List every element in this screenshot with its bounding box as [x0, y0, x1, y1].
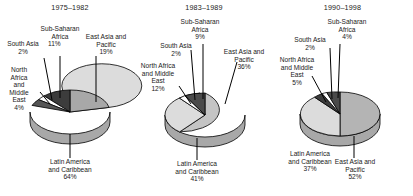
pie-1-value-sub-saharan-africa: 11%: [48, 40, 61, 48]
pie-panel-1975-1982: 1975–1982 Sub-Saharan Africa: [0, 0, 140, 196]
pie-1-label-north-africa-and-middle-east: North Africa and Middle East 4%: [0, 66, 38, 112]
pie-3-label-north-africa-and-middle-east: North Africa and Middle East 5%: [272, 56, 322, 86]
pie-panel-1983-1989: 1983–1989 Sub-Saharan Africa 9%: [133, 0, 275, 196]
pie-2-label-sub-saharan-africa: Sub-Saharan Africa 9%: [167, 18, 233, 41]
pie-1-label-latin-america-and-caribbean: Latin America and Caribbean 64%: [22, 158, 118, 181]
pie-3-label-east-asia-and-pacific: East Asia and Pacific 52%: [324, 158, 386, 181]
pie-2-label-latin-america-and-caribbean: Latin America and Caribbean 41%: [149, 160, 245, 183]
pie-2-leader-south-asia: [191, 50, 195, 100]
pie-1-label-east-asia-and-pacific: East Asia and Pacific 19%: [76, 33, 136, 56]
pie-1-label-south-asia: South Asia 2%: [2, 40, 44, 55]
pie-3-leader-south-asia: [330, 48, 332, 99]
pie-3-leader-sub-saharan-africa: [338, 44, 340, 98]
pie-2-label-north-africa-and-middle-east: North Africa and Middle East 12%: [133, 62, 183, 92]
pie-2-label-east-asia-and-pacific: East Asia and Pacific 36%: [213, 48, 275, 71]
pie-2-label-south-asia: South Asia 2%: [151, 42, 201, 57]
pie-panel-1990-1998: 1990–1998 Sub-Saharan Africa 4% Sout: [272, 0, 413, 196]
pie-3-label-south-asia: South Asia 2%: [284, 36, 336, 51]
three-pie-chart-figure: 1975–1982 Sub-Saharan Africa: [0, 0, 413, 196]
